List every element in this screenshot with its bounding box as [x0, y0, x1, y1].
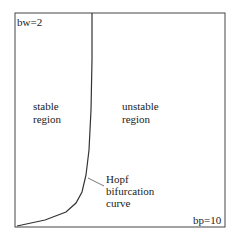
unstable-region-label-line1: unstable [122, 100, 159, 112]
stable-region-label-line1: stable [33, 100, 59, 112]
curve-label-line2: bifurcation [106, 185, 154, 197]
unstable-region-label-line2: region [122, 113, 150, 125]
bw-label: bw=2 [17, 16, 42, 28]
bp-label: bp=10 [193, 214, 221, 226]
label-leader-line [88, 178, 104, 186]
stable-region-label-line2: region [33, 113, 61, 125]
curve-label-line1: Hopf [106, 173, 129, 185]
curve-label-line3: curve [106, 197, 130, 209]
